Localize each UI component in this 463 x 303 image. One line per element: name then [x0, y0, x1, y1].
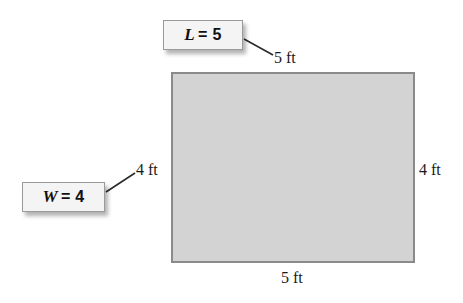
callout-length: L = 5 — [163, 20, 243, 50]
dimension-label-left: 4 ft — [136, 162, 158, 178]
callout-width: W = 4 — [22, 182, 105, 212]
diagram-canvas: 5 ft 5 ft 4 ft 4 ft L = 5 W = 4 — [0, 0, 463, 303]
callout-length-expression: = 5 — [198, 26, 222, 44]
dimension-label-bottom: 5 ft — [281, 270, 303, 286]
callout-width-variable: W — [42, 187, 57, 207]
leader-line-width — [106, 173, 135, 192]
callout-length-variable: L — [184, 25, 195, 45]
rectangle-shape — [171, 72, 415, 263]
callout-width-expression: = 4 — [61, 188, 85, 206]
dimension-label-right: 4 ft — [419, 162, 441, 178]
dimension-label-top: 5 ft — [274, 50, 296, 66]
leader-line-length — [244, 39, 273, 55]
